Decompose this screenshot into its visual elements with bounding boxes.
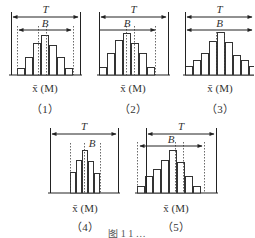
axis-label: x̄ (M)	[25, 82, 65, 94]
histogram-bar	[18, 69, 25, 76]
histogram-bar	[226, 43, 233, 76]
axis-label: x̄ (M)	[113, 82, 153, 94]
axis-label: x̄ (M)	[156, 202, 196, 214]
histogram-figure	[0, 0, 254, 238]
histogram-bar	[77, 161, 82, 194]
histogram-bar	[50, 46, 57, 76]
figure-caption: 图 1 1 …	[0, 229, 254, 238]
B-label: B	[39, 17, 51, 29]
histogram-bar	[34, 44, 41, 76]
T-label: T	[175, 120, 187, 132]
histogram-bar	[42, 36, 49, 76]
histogram-bar	[89, 162, 94, 194]
histogram-bar	[154, 170, 161, 194]
panel-number-label: （1）	[25, 100, 65, 116]
panel-2	[97, 12, 170, 75]
histogram-bar	[95, 174, 100, 194]
panel-number-label: （3）	[200, 100, 240, 116]
histogram-bar	[83, 151, 88, 194]
T-label: T	[40, 3, 52, 15]
histogram-bar	[116, 41, 123, 76]
histogram-bar	[170, 151, 177, 194]
histogram-bar	[250, 67, 255, 76]
histogram-bar	[66, 69, 73, 76]
B-label: B	[165, 133, 177, 145]
histogram-bar	[194, 61, 201, 76]
B-label: B	[214, 17, 226, 29]
histogram-bar	[186, 67, 193, 76]
T-label: T	[78, 120, 90, 132]
panel-number-label: （2）	[113, 100, 153, 116]
histogram-bar	[140, 54, 147, 76]
histogram-bar	[71, 173, 76, 194]
histogram-bar	[186, 177, 193, 194]
histogram-bar	[242, 61, 249, 76]
histogram-bar	[100, 68, 107, 76]
B-label: B	[121, 17, 133, 29]
histogram-bar	[210, 42, 217, 76]
histogram-bar	[26, 58, 33, 76]
histogram-bar	[124, 34, 131, 76]
histogram-bar	[132, 44, 139, 76]
histogram-bar	[58, 58, 65, 76]
T-label: T	[128, 3, 140, 15]
histogram-bar	[218, 33, 225, 76]
panel-4	[48, 128, 120, 193]
T-label: T	[214, 3, 226, 15]
histogram-bar	[162, 161, 169, 194]
histogram-bar	[194, 187, 201, 194]
axis-label: x̄ (M)	[65, 202, 105, 214]
histogram-bar	[108, 54, 115, 76]
axis-label: x̄ (M)	[200, 82, 240, 94]
histogram-bar	[202, 54, 209, 76]
histogram-bar	[234, 56, 241, 76]
B-label: B	[86, 137, 98, 149]
histogram-bar	[138, 187, 145, 194]
histogram-bar	[148, 68, 155, 76]
